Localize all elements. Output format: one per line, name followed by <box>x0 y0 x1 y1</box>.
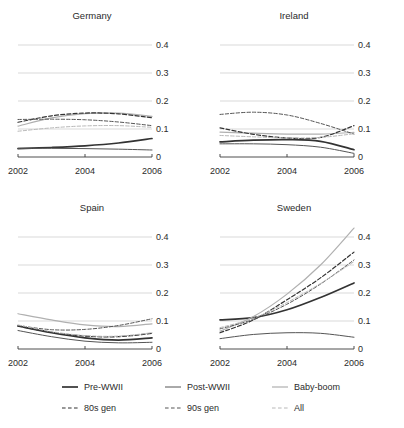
series-line-baby-boom <box>220 228 354 331</box>
panel-title-ireland: Ireland <box>279 10 308 21</box>
panel-spain: Spain 0.4 0.3 0.2 0.1 0 2002 2004 2006 <box>8 202 169 368</box>
xtick-label-2002: 2002 <box>210 166 230 176</box>
xtick-label-2006: 2006 <box>142 358 162 368</box>
x-axis-ireland: 2002 2004 2006 <box>210 154 364 176</box>
series-line-post-wwii <box>18 148 152 150</box>
ytick-label-0.3: 0.3 <box>358 68 371 78</box>
series-line-baby-boom <box>18 314 152 327</box>
ytick-label-0.1: 0.1 <box>358 316 371 326</box>
ytick-label-0: 0 <box>156 344 161 354</box>
series-line-all <box>18 126 152 132</box>
legend-label-baby-boom: Baby-boom <box>294 382 340 392</box>
gridlines-sweden <box>220 237 354 321</box>
legend-label-all: All <box>294 403 304 413</box>
series-group-germany <box>18 113 152 150</box>
xtick-label-2004: 2004 <box>75 358 95 368</box>
ytick-label-0.4: 0.4 <box>156 232 169 242</box>
legend-item-all[interactable]: All <box>272 403 304 413</box>
x-axis-sweden: 2002 2004 2006 <box>210 346 364 368</box>
ytick-label-0.3: 0.3 <box>156 260 169 270</box>
series-group-sweden <box>220 228 354 339</box>
panel-title-germany: Germany <box>72 10 111 21</box>
chart-legend: Pre-WWII Post-WWII Baby-boom 80s gen 90s… <box>62 382 340 413</box>
ytick-label-0.2: 0.2 <box>358 288 371 298</box>
legend-label-80s-gen: 80s gen <box>84 403 116 413</box>
ytick-label-0.4: 0.4 <box>358 232 371 242</box>
panel-ireland: Ireland 0.4 0.3 0.2 0.1 0 2002 2004 2006 <box>210 10 371 176</box>
gridlines-spain <box>18 237 152 321</box>
x-axis-spain: 2002 2004 2006 <box>8 346 162 368</box>
series-line-post-wwii <box>220 144 354 154</box>
series-line-90s-gen <box>18 119 152 125</box>
y-axis-labels-spain: 0.4 0.3 0.2 0.1 0 <box>156 232 169 354</box>
series-line-post-wwii <box>220 333 354 339</box>
y-axis-labels-germany: 0.4 0.3 0.2 0.1 0 <box>156 40 169 162</box>
gridlines-germany <box>18 45 152 129</box>
ytick-label-0.4: 0.4 <box>156 40 169 50</box>
panel-germany: Germany 0.4 0.3 0.2 0.1 0 2002 2004 2006 <box>8 10 169 176</box>
ytick-label-0: 0 <box>358 344 363 354</box>
y-axis-labels-ireland: 0.4 0.3 0.2 0.1 0 <box>358 40 371 162</box>
ytick-label-0.1: 0.1 <box>156 316 169 326</box>
ytick-label-0: 0 <box>358 152 363 162</box>
y-axis-labels-sweden: 0.4 0.3 0.2 0.1 0 <box>358 232 371 354</box>
series-line-pre-wwii <box>220 283 354 320</box>
ytick-label-0.1: 0.1 <box>358 124 371 134</box>
legend-label-pre-wwii: Pre-WWII <box>84 382 123 392</box>
legend-item-90s-gen[interactable]: 90s gen <box>165 403 219 413</box>
legend-item-pre-wwii[interactable]: Pre-WWII <box>62 382 123 392</box>
small-multiples-chart: Germany 0.4 0.3 0.2 0.1 0 2002 2004 2006… <box>0 0 404 428</box>
series-group-spain <box>18 314 152 343</box>
xtick-label-2004: 2004 <box>75 166 95 176</box>
xtick-label-2004: 2004 <box>277 358 297 368</box>
ytick-label-0.4: 0.4 <box>358 40 371 50</box>
x-axis-germany: 2002 2004 2006 <box>8 154 162 176</box>
xtick-label-2002: 2002 <box>8 358 28 368</box>
series-line-pre-wwii <box>18 326 152 340</box>
panel-sweden: Sweden 0.4 0.3 0.2 0.1 0 2002 2004 2006 <box>210 202 371 368</box>
series-group-ireland <box>220 112 354 153</box>
gridlines-ireland <box>220 45 354 129</box>
xtick-label-2006: 2006 <box>344 358 364 368</box>
ytick-label-0.1: 0.1 <box>156 124 169 134</box>
ytick-label-0.2: 0.2 <box>156 288 169 298</box>
legend-label-post-wwii: Post-WWII <box>187 382 230 392</box>
series-line-90s-gen <box>220 112 354 134</box>
panel-title-spain: Spain <box>80 202 104 213</box>
ytick-label-0.3: 0.3 <box>156 68 169 78</box>
legend-item-80s-gen[interactable]: 80s gen <box>62 403 116 413</box>
series-line-pre-wwii <box>18 139 152 149</box>
ytick-label-0: 0 <box>156 152 161 162</box>
legend-label-90s-gen: 90s gen <box>187 403 219 413</box>
xtick-label-2002: 2002 <box>8 166 28 176</box>
xtick-label-2006: 2006 <box>142 166 162 176</box>
series-line-post-wwii <box>18 331 152 343</box>
legend-item-baby-boom[interactable]: Baby-boom <box>272 382 340 392</box>
ytick-label-0.2: 0.2 <box>358 96 371 106</box>
xtick-label-2006: 2006 <box>344 166 364 176</box>
xtick-label-2002: 2002 <box>210 358 230 368</box>
panel-title-sweden: Sweden <box>277 202 311 213</box>
ytick-label-0.2: 0.2 <box>156 96 169 106</box>
legend-item-post-wwii[interactable]: Post-WWII <box>165 382 230 392</box>
ytick-label-0.3: 0.3 <box>358 260 371 270</box>
xtick-label-2004: 2004 <box>277 166 297 176</box>
